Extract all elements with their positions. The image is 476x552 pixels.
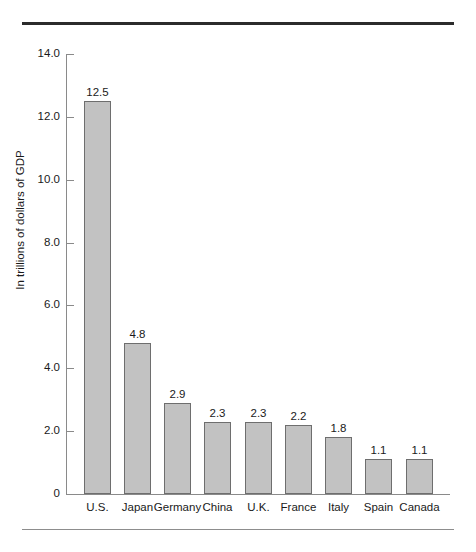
y-axis-line xyxy=(66,54,67,495)
plot-area: 14.012.010.08.06.04.02.00 12.54.82.92.32… xyxy=(66,54,450,494)
bar xyxy=(245,422,272,494)
bar xyxy=(285,425,312,494)
bottom-rule-divider xyxy=(22,529,454,530)
gdp-bar-chart-figure: 14.012.010.08.06.04.02.00 12.54.82.92.32… xyxy=(0,0,476,552)
x-axis-category-label: Canada xyxy=(390,501,449,514)
y-axis-tick xyxy=(67,305,74,306)
bar xyxy=(84,101,111,494)
y-axis-title-text: In trillions of dollars of GDP xyxy=(14,0,26,440)
bar xyxy=(365,459,392,494)
bar xyxy=(164,403,191,494)
bar-value-label: 1.8 xyxy=(311,422,366,434)
y-axis-tick-label: 0 xyxy=(14,488,60,500)
y-axis-tick xyxy=(67,117,74,118)
y-axis-tick xyxy=(67,54,74,55)
bar-value-label: 2.2 xyxy=(271,410,326,422)
bar-value-label: 4.8 xyxy=(110,328,165,340)
bar xyxy=(204,422,231,494)
y-axis-tick xyxy=(67,494,74,495)
bar xyxy=(124,343,151,494)
y-axis-tick xyxy=(67,243,74,244)
bar xyxy=(325,437,352,494)
bar-value-label: 12.5 xyxy=(70,86,125,98)
bar-value-label: 2.9 xyxy=(150,388,205,400)
y-axis-tick xyxy=(67,431,74,432)
x-axis-line xyxy=(66,494,450,495)
bar-value-label: 1.1 xyxy=(392,444,447,456)
y-axis-tick xyxy=(67,180,74,181)
y-axis-tick xyxy=(67,368,74,369)
top-rule-divider xyxy=(22,22,454,25)
bar xyxy=(406,459,433,494)
